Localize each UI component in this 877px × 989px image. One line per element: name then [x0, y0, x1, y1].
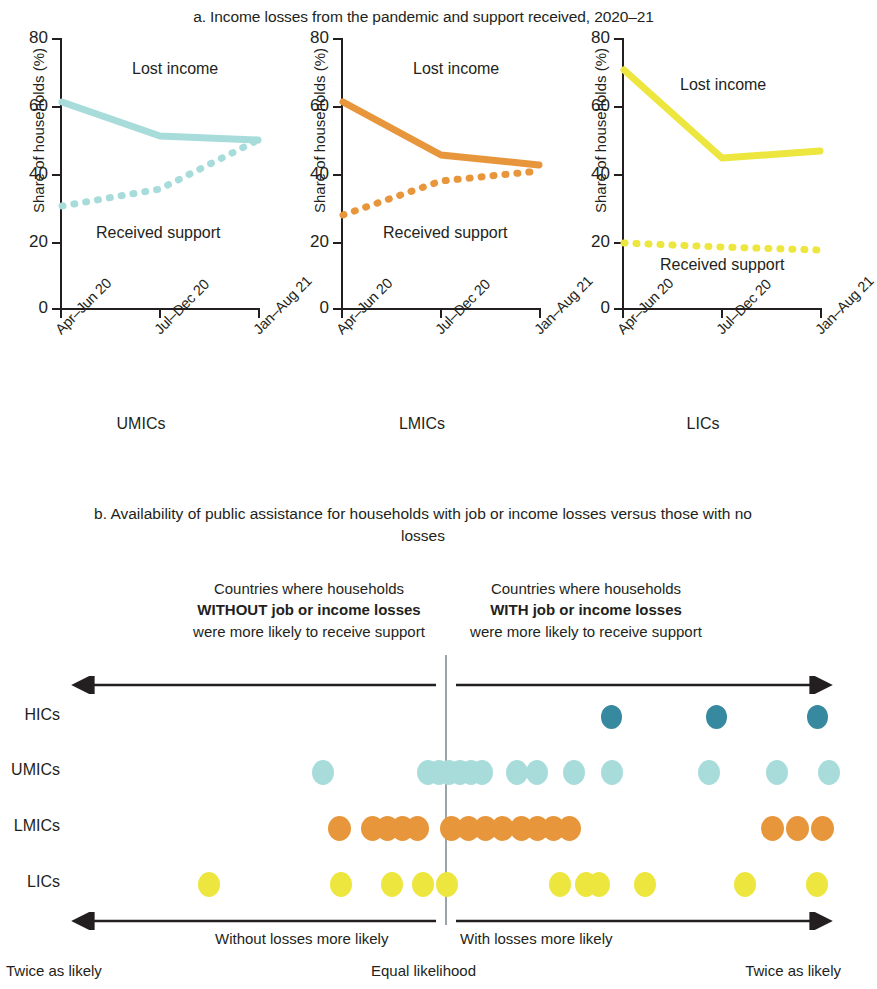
column-header-line3: were more likely to receive support	[175, 621, 443, 642]
line-lost-income	[343, 102, 539, 165]
dot-lics	[806, 872, 828, 897]
chart-footer-lmics: LMICs	[281, 415, 563, 433]
y-tick-mark	[333, 38, 341, 40]
label-received-support: Received support	[96, 224, 221, 242]
panel-a-charts: Share of households (%) 80 60 40 20 0	[0, 30, 847, 470]
dot-lics	[734, 872, 756, 897]
label-lost-income: Lost income	[680, 76, 766, 94]
y-tick-label: 80	[550, 29, 610, 46]
series-lines-umics	[60, 38, 260, 310]
y-axis-title: Share of households (%)	[30, 21, 47, 241]
column-header-with-losses: Countries where households WITH job or i…	[452, 578, 720, 642]
dot-umics	[526, 760, 548, 785]
series-lines-lmics	[341, 38, 541, 310]
y-tick-mark	[333, 242, 341, 244]
y-tick-mark	[333, 308, 341, 310]
y-tick-label: 40	[0, 165, 48, 182]
plot-area-lmics: 80 60 40 20 0 Lost income Received suppo…	[341, 38, 541, 310]
bottom-arrows	[0, 912, 847, 930]
column-header-line2: WITH job or income losses	[490, 601, 682, 618]
footer-with-losses-more-likely: With losses more likely	[460, 930, 613, 947]
y-axis-title: Share of households (%)	[311, 21, 328, 241]
label-lost-income: Lost income	[413, 60, 499, 78]
line-received-support	[62, 140, 258, 206]
y-tick-label: 80	[0, 29, 48, 46]
plot-area-lics: 80 60 40 20 0 Lost income Received suppo…	[622, 38, 822, 310]
dot-umics	[818, 760, 840, 785]
y-tick-label: 60	[550, 97, 610, 114]
dot-umics	[506, 760, 528, 785]
line-received-support	[343, 171, 539, 215]
dot-umics	[698, 760, 720, 785]
dot-lics	[588, 872, 610, 897]
dot-lics	[198, 872, 220, 897]
line-chart-umics: Share of households (%) 80 60 40 20 0	[0, 30, 282, 470]
line-lost-income	[62, 102, 258, 140]
y-tick-mark	[614, 106, 622, 108]
y-tick-label: 40	[269, 165, 329, 182]
line-chart-lics: Share of households (%) 80 60 40 20 0	[562, 30, 844, 470]
dot-lmics	[328, 816, 351, 841]
panel-b-title: b. Availability of public assistance for…	[73, 503, 773, 548]
top-arrows	[0, 676, 847, 694]
y-tick-label: 0	[269, 299, 329, 316]
row-label-umics: UMICs	[0, 761, 60, 779]
y-tick-label: 20	[269, 233, 329, 250]
y-tick-mark	[614, 308, 622, 310]
y-tick-mark	[52, 174, 60, 176]
dot-lics	[634, 872, 656, 897]
y-tick-mark	[52, 38, 60, 40]
dot-hics	[706, 705, 727, 729]
y-tick-label: 20	[550, 233, 610, 250]
label-received-support: Received support	[383, 224, 508, 242]
y-tick-mark	[614, 174, 622, 176]
dot-lics	[436, 872, 458, 897]
line-chart-lmics: Share of households (%) 80 60 40 20 0	[281, 30, 563, 470]
column-header-line1: Countries where households	[175, 578, 443, 599]
y-tick-label: 0	[0, 299, 48, 316]
y-tick-label: 80	[269, 29, 329, 46]
dot-umics	[563, 760, 585, 785]
column-header-without-losses: Countries where households WITHOUT job o…	[175, 578, 443, 642]
footer-without-losses-more-likely: Without losses more likely	[215, 930, 388, 947]
y-tick-label: 60	[269, 97, 329, 114]
y-tick-label: 40	[550, 165, 610, 182]
dot-lics	[330, 872, 352, 897]
dot-lmics	[761, 816, 784, 841]
y-tick-label: 20	[0, 233, 48, 250]
y-tick-label: 0	[550, 299, 610, 316]
y-tick-mark	[52, 106, 60, 108]
dot-lmics	[558, 816, 581, 841]
row-label-hics: HICs	[0, 706, 60, 724]
column-header-line1: Countries where households	[452, 578, 720, 599]
column-header-line2: WITHOUT job or income losses	[197, 601, 420, 618]
y-tick-mark	[52, 242, 60, 244]
chart-footer-umics: UMICs	[0, 415, 282, 433]
dot-lmics	[406, 816, 429, 841]
y-tick-mark	[333, 106, 341, 108]
line-received-support	[624, 243, 820, 250]
footer-twice-as-likely-right: Twice as likely	[745, 962, 841, 979]
y-tick-mark	[52, 308, 60, 310]
label-lost-income: Lost income	[132, 60, 218, 78]
dot-hics	[601, 705, 622, 729]
footer-equal-likelihood: Equal likelihood	[0, 962, 847, 979]
row-label-lmics: LMICs	[0, 817, 60, 835]
plot-area-umics: 80 60 40 20 0 Lost income Received suppo…	[60, 38, 260, 310]
dot-hics	[807, 705, 828, 729]
dot-lmics	[786, 816, 809, 841]
y-tick-label: 60	[0, 97, 48, 114]
dot-lics	[381, 872, 403, 897]
dot-lics	[549, 872, 571, 897]
y-tick-mark	[614, 38, 622, 40]
y-tick-mark	[333, 174, 341, 176]
dot-umics	[312, 760, 334, 785]
dot-umics	[471, 760, 493, 785]
label-received-support: Received support	[660, 256, 785, 274]
dot-lics	[412, 872, 434, 897]
dot-lmics	[811, 816, 834, 841]
row-label-lics: LICs	[0, 873, 60, 891]
dot-umics	[766, 760, 788, 785]
panel-a-title: a. Income losses from the pandemic and s…	[0, 8, 847, 26]
